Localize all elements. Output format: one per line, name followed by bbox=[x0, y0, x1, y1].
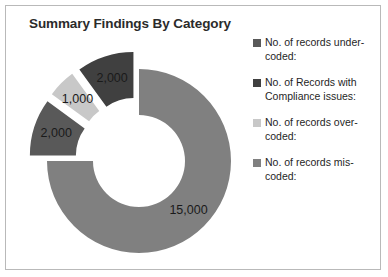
legend-item-label: No. of records under-coded: bbox=[265, 36, 381, 63]
chart-legend: No. of records under-coded: No. of Recor… bbox=[253, 36, 381, 196]
legend-swatch-icon bbox=[253, 159, 261, 167]
legend-item-mis-coded[interactable]: No. of records mis-coded: bbox=[253, 156, 381, 183]
legend-swatch-icon bbox=[253, 119, 261, 127]
legend-item-label: No. of records mis-coded: bbox=[265, 156, 381, 183]
doughnut-chart-plot-area: 15,0002,0001,0002,000 bbox=[14, 30, 246, 264]
legend-swatch-icon bbox=[253, 39, 261, 47]
chart-frame: Summary Findings By Category 15,0002,000… bbox=[5, 5, 381, 270]
doughnut-slice-layer bbox=[30, 52, 231, 253]
doughnut-slice-value-label: 1,000 bbox=[62, 92, 93, 106]
chart-title: Summary Findings By Category bbox=[20, 16, 240, 31]
legend-swatch-icon bbox=[253, 79, 261, 87]
legend-item-over-coded[interactable]: No. of records over-coded: bbox=[253, 116, 381, 143]
legend-item-compliance-issues[interactable]: No. of Records with Compliance issues: bbox=[253, 76, 381, 103]
legend-item-label: No. of Records with Compliance issues: bbox=[265, 76, 381, 103]
legend-item-under-coded[interactable]: No. of records under-coded: bbox=[253, 36, 381, 63]
doughnut-slice-value-label: 2,000 bbox=[41, 126, 72, 140]
legend-item-label: No. of records over-coded: bbox=[265, 116, 381, 143]
doughnut-chart-svg: 15,0002,0001,0002,000 bbox=[14, 30, 246, 264]
doughnut-slice-value-label: 2,000 bbox=[96, 71, 127, 85]
doughnut-slice-value-label: 15,000 bbox=[169, 203, 207, 217]
